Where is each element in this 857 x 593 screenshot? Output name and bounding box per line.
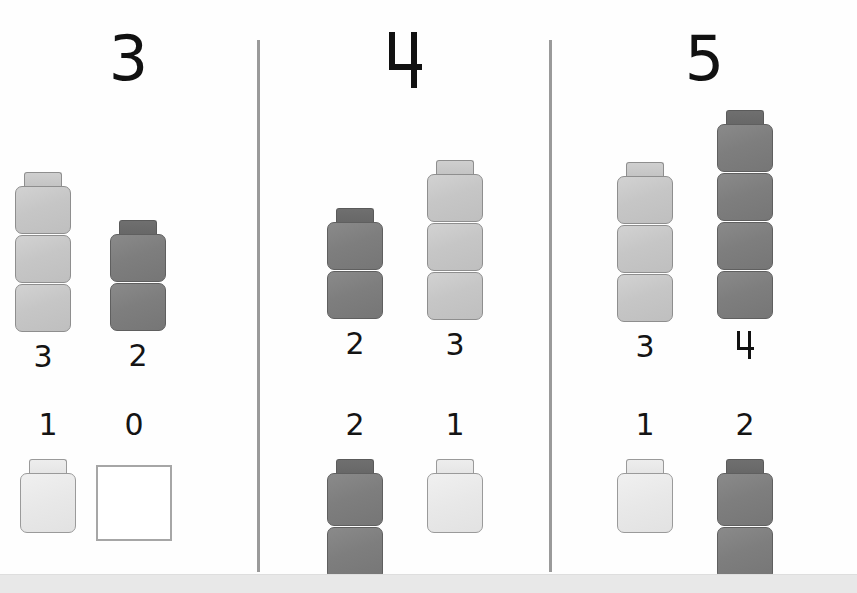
cube [717, 222, 773, 270]
page-bottom-strip [0, 574, 857, 593]
column-header-number: 5 [552, 28, 857, 90]
cube-count-label: 1 [602, 410, 688, 440]
cube-stack-cell[interactable]: 3 [602, 162, 688, 362]
cube [427, 473, 483, 533]
cube-stack[interactable] [327, 208, 383, 319]
cube-stack[interactable] [110, 220, 166, 331]
cube-stack-cell[interactable]: 2 [95, 220, 181, 371]
cube-nub-icon [436, 160, 474, 175]
cube [110, 283, 166, 331]
cube [427, 223, 483, 271]
column-group-4: 2 3 2 [260, 0, 550, 593]
cube [717, 124, 773, 172]
cube [617, 225, 673, 273]
cube [427, 174, 483, 222]
cube-stack[interactable] [617, 162, 673, 322]
cube-stack[interactable] [427, 160, 483, 320]
cube-nub-icon [336, 208, 374, 223]
cube [15, 235, 71, 283]
row-top: 3 2 [0, 160, 257, 360]
cube [327, 473, 383, 526]
cube-stack-cell[interactable]: 3 [0, 172, 86, 372]
cube [15, 284, 71, 332]
cube-count-label: 1 [5, 410, 91, 440]
column-group-3: 3 3 2 [0, 0, 257, 593]
empty-zero-square [96, 465, 172, 541]
row-bottom: 1 2 [552, 410, 857, 590]
cube-count-label [702, 329, 788, 360]
row-top: 3 [552, 110, 857, 360]
cube [15, 186, 71, 234]
cube-nub-icon [24, 172, 62, 187]
cube [327, 527, 383, 580]
cube-nub-icon [626, 459, 664, 474]
cube-nub-icon [726, 459, 764, 474]
cube-nub-icon [726, 110, 764, 125]
worksheet-canvas: 3 3 2 [0, 0, 857, 593]
cube-stack[interactable] [15, 172, 71, 332]
cube [327, 271, 383, 319]
cube-count-label: 2 [702, 410, 788, 440]
cube [617, 274, 673, 322]
digit-four-glyph [385, 28, 425, 90]
cube-stack-cell[interactable]: 1 [602, 410, 688, 533]
cube-stack[interactable] [617, 459, 673, 533]
cube-count-label: 2 [312, 329, 398, 359]
cube-count-label: 3 [0, 342, 86, 372]
column-header-number: 3 [0, 28, 257, 90]
cube-stack-cell[interactable]: 3 [412, 160, 498, 360]
cube [717, 271, 773, 319]
cube [20, 473, 76, 533]
column-header-number [260, 28, 550, 90]
cube-nub-icon [436, 459, 474, 474]
cube-stack[interactable] [427, 459, 483, 533]
cube [617, 176, 673, 224]
cube-stack[interactable] [327, 459, 383, 580]
row-top: 2 3 [260, 160, 550, 360]
cube-count-label: 3 [602, 332, 688, 362]
cube-count-label: 3 [412, 330, 498, 360]
cube-stack[interactable] [717, 459, 773, 580]
cube-stack[interactable] [20, 459, 76, 533]
column-group-5: 5 3 [552, 0, 857, 593]
zero-placeholder-cell[interactable]: 0 [91, 410, 177, 541]
cube-count-label: 1 [412, 410, 498, 440]
cube-stack-cell[interactable]: 2 [312, 410, 398, 580]
digit-four-glyph [735, 329, 756, 360]
cube-stack-cell[interactable]: 1 [412, 410, 498, 533]
cube-stack-cell[interactable] [702, 110, 788, 360]
cube-count-label: 0 [91, 410, 177, 440]
cube-nub-icon [336, 459, 374, 474]
cube-stack-cell[interactable]: 2 [702, 410, 788, 580]
cube-count-label: 2 [95, 341, 181, 371]
cube [617, 473, 673, 533]
cube [717, 527, 773, 580]
cube [110, 234, 166, 282]
cube-nub-icon [626, 162, 664, 177]
cube [717, 473, 773, 526]
cube [717, 173, 773, 221]
cube [327, 222, 383, 270]
row-bottom: 2 1 [260, 410, 550, 590]
cube-count-label: 2 [312, 410, 398, 440]
cube-nub-icon [29, 459, 67, 474]
cube-stack-cell[interactable]: 1 [5, 410, 91, 533]
cube [427, 272, 483, 320]
cube-stack-cell[interactable]: 2 [312, 208, 398, 359]
row-bottom: 1 0 [0, 410, 257, 580]
cube-stack[interactable] [717, 110, 773, 319]
cube-nub-icon [119, 220, 157, 235]
